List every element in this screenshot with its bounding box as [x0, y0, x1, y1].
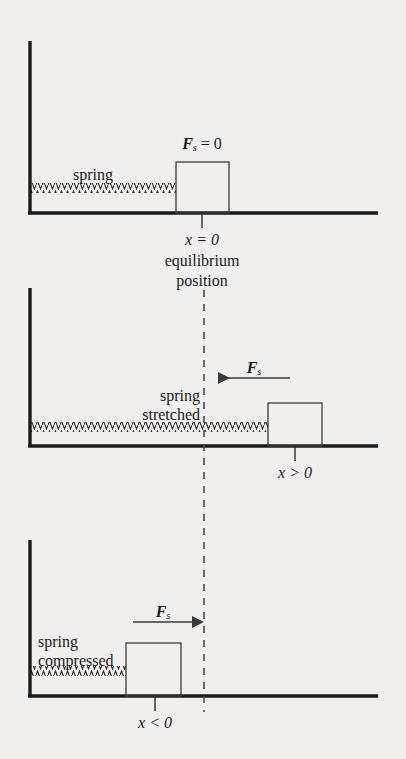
block — [268, 403, 322, 446]
force-label-equilibrium: Fs = 0 — [182, 135, 222, 154]
spring-coil — [31, 183, 176, 193]
force-symbol: F — [182, 135, 193, 152]
spring-label-stretched-line1: spring — [160, 387, 200, 405]
force-value: = 0 — [197, 135, 222, 152]
force-subscript: s — [166, 610, 170, 621]
force-symbol: F — [156, 603, 167, 620]
position-label-stretched: x > 0 — [278, 464, 312, 482]
spring-label-stretched-line2: stretched — [142, 406, 200, 424]
equilibrium-caption-line2: position — [176, 272, 228, 290]
block — [126, 643, 181, 696]
spring-label-equilibrium: spring — [73, 166, 113, 184]
position-label-equilibrium: x = 0 — [185, 231, 219, 249]
equilibrium-caption-line1: equilibrium — [165, 252, 240, 270]
spring-label-compressed-line1: spring — [38, 633, 78, 651]
force-label-compressed: Fs — [156, 603, 171, 622]
spring-label-compressed-line2: compressed — [38, 652, 114, 670]
force-subscript: s — [257, 366, 261, 377]
force-symbol: F — [247, 359, 258, 376]
panel-compressed — [28, 540, 378, 711]
block — [176, 162, 229, 213]
force-label-stretched: Fs — [247, 359, 262, 378]
position-label-compressed: x < 0 — [138, 714, 172, 732]
panel-stretched — [28, 288, 378, 461]
